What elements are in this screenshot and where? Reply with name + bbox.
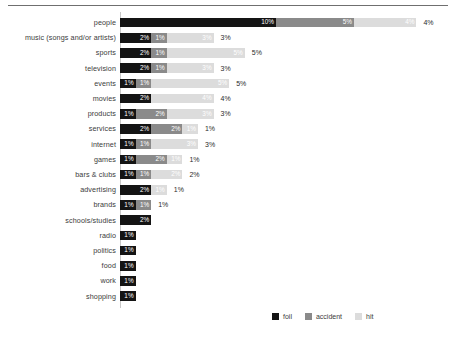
- segment-value-label: 1%: [124, 111, 135, 117]
- bar-total-label: 5%: [245, 49, 262, 56]
- stacked-bar: 1%2%1%: [120, 155, 182, 165]
- legend-label: accident: [316, 313, 342, 320]
- stacked-bar: 1%1%3%: [120, 139, 198, 149]
- category-label: brands: [0, 200, 120, 209]
- chart-plot-area: people10%5%4%4%music (songs and/or artis…: [0, 12, 454, 310]
- segment-value-label: 2%: [140, 50, 151, 56]
- bar-segment-foil: 1%: [120, 231, 136, 241]
- stacked-bar: 2%4%: [120, 94, 214, 104]
- segment-value-label: 1%: [124, 247, 135, 253]
- bar-row: shopping1%: [0, 289, 454, 304]
- segment-value-label: 1%: [140, 141, 151, 147]
- bar-row: people10%5%4%4%: [0, 15, 454, 30]
- segment-value-label: 1%: [156, 50, 167, 56]
- bar-total-label: 1%: [167, 186, 184, 193]
- segment-value-label: 1%: [156, 35, 167, 41]
- legend-swatch-icon: [355, 313, 362, 320]
- segment-value-label: 1%: [124, 263, 135, 269]
- segment-value-label: 5%: [234, 50, 245, 56]
- stacked-bar: 1%2%3%: [120, 109, 214, 119]
- category-label: food: [0, 261, 120, 270]
- segment-value-label: 5%: [218, 80, 229, 86]
- stacked-bar: 1%1%: [120, 200, 151, 210]
- segment-value-label: 3%: [187, 141, 198, 147]
- legend-item-accident[interactable]: accident: [305, 313, 342, 320]
- bar-segment-foil: 1%: [120, 200, 136, 210]
- stacked-bar: 1%1%5%: [120, 79, 229, 89]
- segment-value-label: 10%: [261, 19, 276, 25]
- segment-value-label: 3%: [202, 65, 213, 71]
- bar-row: games1%2%1%1%: [0, 152, 454, 167]
- bar-segment-foil: 1%: [120, 155, 136, 165]
- category-label: work: [0, 276, 120, 285]
- bar-segment-foil: 1%: [120, 276, 136, 286]
- segment-value-label: 1%: [124, 293, 135, 299]
- bar-segment-hit: 5%: [151, 79, 229, 89]
- category-label: sports: [0, 48, 120, 57]
- bar-segment-foil: 1%: [120, 291, 136, 301]
- legend-item-hit[interactable]: hit: [355, 313, 373, 320]
- bar-segment-accident: 1%: [151, 63, 167, 73]
- segment-value-label: 2%: [171, 126, 182, 132]
- segment-value-label: 1%: [156, 65, 167, 71]
- bar-row: products1%2%3%3%: [0, 106, 454, 121]
- bar-row: events1%1%5%5%: [0, 76, 454, 91]
- bar-row: brands1%1%1%: [0, 197, 454, 212]
- segment-value-label: 1%: [124, 278, 135, 284]
- bar-row: movies2%4%4%: [0, 91, 454, 106]
- top-divider-rule: [8, 5, 448, 6]
- bar-segment-hit: 5%: [167, 48, 245, 58]
- bar-row: internet1%1%3%3%: [0, 137, 454, 152]
- stacked-bar: 2%1%: [120, 185, 167, 195]
- bar-segment-foil: 2%: [120, 48, 151, 58]
- bar-row: bars & clubs1%1%2%2%: [0, 167, 454, 182]
- stacked-bar: 2%1%3%: [120, 63, 214, 73]
- stacked-bar: 1%: [120, 291, 136, 301]
- category-label: television: [0, 64, 120, 73]
- bar-total-label: 4%: [416, 19, 433, 26]
- bar-row: services2%2%1%1%: [0, 121, 454, 136]
- category-label: radio: [0, 231, 120, 240]
- bar-total-label: 5%: [229, 80, 246, 87]
- bar-total-label: 3%: [214, 65, 231, 72]
- bar-segment-hit: 1%: [182, 124, 198, 134]
- segment-value-label: 1%: [124, 156, 135, 162]
- category-label: internet: [0, 140, 120, 149]
- bar-segment-accident: 2%: [151, 124, 182, 134]
- segment-value-label: 1%: [124, 171, 135, 177]
- segment-value-label: 2%: [140, 95, 151, 101]
- bar-segment-accident: 1%: [151, 33, 167, 43]
- bar-segment-hit: 4%: [354, 18, 416, 28]
- bar-segment-foil: 1%: [120, 261, 136, 271]
- bar-total-label: 3%: [214, 110, 231, 117]
- legend-swatch-icon: [305, 313, 312, 320]
- bar-segment-accident: 1%: [136, 79, 152, 89]
- bar-row: sports2%1%5%5%: [0, 45, 454, 60]
- segment-value-label: 3%: [202, 35, 213, 41]
- category-label: products: [0, 109, 120, 118]
- legend-label: foil: [283, 313, 292, 320]
- category-label: advertising: [0, 185, 120, 194]
- segment-value-label: 2%: [140, 187, 151, 193]
- bar-segment-foil: 1%: [120, 139, 136, 149]
- segment-value-label: 2%: [156, 111, 167, 117]
- bar-segment-accident: 2%: [136, 155, 167, 165]
- bar-total-label: 2%: [182, 171, 199, 178]
- segment-value-label: 4%: [405, 19, 416, 25]
- bar-total-label: 4%: [214, 95, 231, 102]
- bar-segment-accident: 5%: [276, 18, 354, 28]
- segment-value-label: 1%: [171, 156, 182, 162]
- legend-swatch-icon: [272, 313, 279, 320]
- bar-segment-hit: 1%: [151, 185, 167, 195]
- stacked-bar: 2%1%3%: [120, 33, 214, 43]
- bar-row: food1%: [0, 258, 454, 273]
- bar-segment-hit: 3%: [167, 109, 214, 119]
- segment-value-label: 1%: [156, 187, 167, 193]
- segment-value-label: 1%: [140, 171, 151, 177]
- bar-segment-accident: 1%: [136, 139, 152, 149]
- bar-segment-hit: 3%: [167, 33, 214, 43]
- bar-segment-foil: 1%: [120, 109, 136, 119]
- bar-row: music (songs and/or artists)2%1%3%3%: [0, 30, 454, 45]
- legend-item-foil[interactable]: foil: [272, 313, 292, 320]
- category-label: people: [0, 18, 120, 27]
